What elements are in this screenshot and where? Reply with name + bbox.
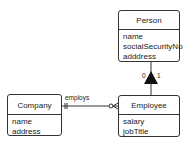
class-company[interactable]: Company name address (7, 94, 62, 136)
zero-circle-icon (109, 104, 113, 108)
inheritance-triangle-icon (144, 71, 158, 84)
attribute: jobTitle (123, 127, 149, 137)
attribute: name (123, 32, 183, 42)
attribute: salary (123, 117, 149, 127)
inheritance-left-label: 0 (142, 72, 146, 79)
attribute-list: salary jobTitle (123, 117, 149, 137)
attribute-list: name socialSecurityNo adddress (123, 32, 183, 62)
attribute: adddress (123, 52, 183, 62)
attribute: name (12, 117, 40, 127)
class-name: Company (8, 95, 61, 115)
inheritance-right-label: 1 (157, 72, 161, 79)
class-name: Employee (119, 96, 179, 115)
attribute: address (12, 127, 40, 137)
attribute-list: name address (12, 117, 40, 137)
class-name: Person (119, 11, 179, 30)
attribute: socialSecurityNo (123, 42, 183, 52)
class-person[interactable]: Person name socialSecurityNo adddress (118, 10, 180, 62)
employs-label: employs (65, 94, 89, 101)
class-employee[interactable]: Employee salary jobTitle (118, 95, 180, 137)
